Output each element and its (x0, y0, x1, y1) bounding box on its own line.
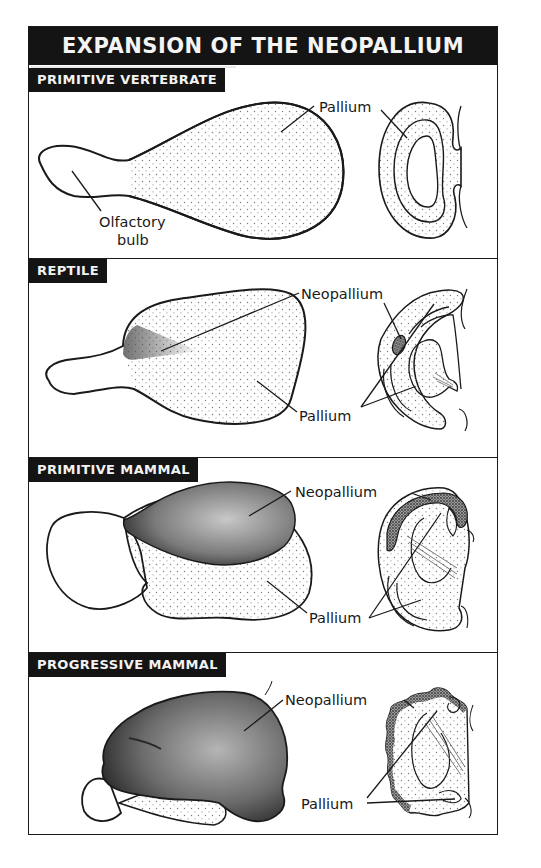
progressive-mammal-illustration: Neopallium Pallium (29, 653, 497, 837)
brain-cross-section (378, 289, 467, 431)
primitive-mammal-illustration: Neopallium Pallium (29, 458, 497, 653)
label-pallium: Pallium (299, 408, 351, 424)
brain-lateral-view (39, 103, 343, 239)
label-pallium: Pallium (319, 99, 371, 115)
label-neopallium: Neopallium (285, 692, 367, 708)
reptile-illustration: Neopallium Pallium (29, 259, 497, 458)
label-pallium: Pallium (301, 796, 353, 812)
label-neopallium: Neopallium (301, 286, 383, 302)
primitive-vertebrate-illustration: Pallium Olfactory bulb (29, 68, 497, 258)
diagram-title: EXPANSION OF THE NEOPALLIUM (29, 27, 497, 65)
label-olfactory-bulb-line1: Olfactory (99, 214, 166, 230)
label-olfactory-bulb-line2: bulb (117, 232, 149, 248)
label-pallium: Pallium (309, 610, 361, 626)
panel-primitive-vertebrate: PRIMITIVE VERTEBRATE Pallium Olfactory b… (29, 68, 497, 258)
panel-progressive-mammal: PROGRESSIVE MAMMAL Neopallium Pallium (29, 652, 497, 836)
panel-primitive-mammal: PRIMITIVE MAMMAL Neopallium Pallium (29, 457, 497, 652)
brain-cross-section (386, 688, 473, 818)
diagram-frame: EXPANSION OF THE NEOPALLIUM (28, 26, 498, 835)
panel-reptile: REPTILE Neopallium Pallium (29, 258, 497, 457)
brain-lateral-view (46, 289, 305, 424)
brain-lateral-view (82, 681, 287, 825)
label-neopallium: Neopallium (295, 484, 377, 500)
